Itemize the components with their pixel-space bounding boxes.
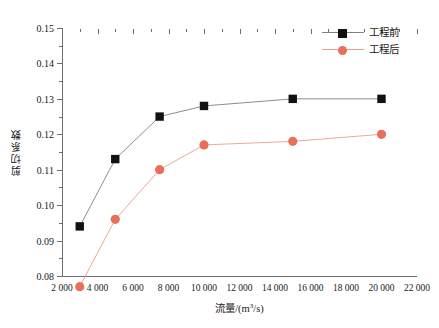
data-point [111, 215, 120, 224]
x-tick [417, 29, 418, 34]
data-point [155, 165, 164, 174]
data-point [289, 95, 297, 103]
data-point [200, 102, 208, 110]
legend-item[interactable]: 工程后 [322, 41, 399, 58]
x-tick-label: 14 000 [262, 283, 288, 293]
x-tick-label: 10 000 [191, 283, 217, 293]
chart-legend: 工程前工程后 [322, 24, 399, 58]
data-point [199, 140, 208, 149]
data-point [377, 95, 385, 103]
series-line-工程后 [80, 134, 382, 286]
data-point [76, 222, 84, 230]
x-tick-label: 12 000 [226, 283, 252, 293]
data-point [75, 282, 84, 291]
y-tick-label: 0.08 [37, 271, 55, 282]
legend-key [322, 27, 364, 39]
legend-label: 工程后 [369, 41, 399, 58]
y-tick-label: 0.14 [37, 58, 55, 69]
legend-key [322, 44, 364, 56]
x-tick-label: 22 000 [404, 283, 430, 293]
x-tick-label: 18 000 [333, 283, 359, 293]
series-line-工程前 [80, 99, 382, 227]
y-tick [57, 276, 62, 277]
x-tick-label: 2 000 [51, 283, 72, 293]
data-point [377, 130, 386, 139]
legend-item[interactable]: 工程前 [322, 24, 399, 41]
data-point [288, 137, 297, 146]
x-axis-title-tail: /s) [253, 303, 264, 314]
y-tick-label: 0.09 [37, 235, 55, 246]
x-axis-title-main: 流量/(m [215, 303, 250, 314]
y-tick-label: 0.10 [37, 200, 55, 211]
y-axis-title: 剪切系数 [9, 128, 24, 176]
x-tick-label: 16 000 [297, 283, 323, 293]
y-tick-label: 0.15 [37, 23, 55, 34]
legend-circle-marker [338, 46, 347, 55]
x-tick-label: 8 000 [158, 283, 179, 293]
x-axis-line [62, 276, 417, 277]
legend-label: 工程前 [369, 24, 399, 41]
x-tick-label: 6 000 [122, 283, 143, 293]
y-tick-label: 0.13 [37, 93, 55, 104]
chart-container: 0.080.090.100.110.120.130.140.15 2 0004 … [0, 0, 439, 328]
x-axis-title: 流量/(m3/s) [62, 300, 417, 315]
plot-area: 0.080.090.100.110.120.130.140.15 2 0004 … [62, 28, 417, 276]
data-point [111, 155, 119, 163]
x-tick-label: 20 000 [368, 283, 394, 293]
y-tick-label: 0.11 [37, 164, 54, 175]
data-series-layer [62, 28, 417, 276]
data-point [155, 112, 163, 120]
x-tick-label: 4 000 [87, 283, 108, 293]
y-tick-label: 0.12 [37, 129, 55, 140]
legend-square-marker [338, 29, 347, 38]
